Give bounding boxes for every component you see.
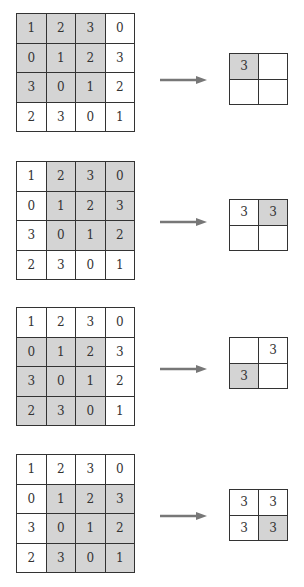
input-cell: 1 (76, 367, 106, 397)
input-cell: 0 (105, 308, 135, 338)
output-cell: 3 (230, 490, 259, 516)
input-cell: 1 (46, 191, 76, 221)
input-cell: 3 (46, 102, 76, 132)
input-cell: 0 (105, 162, 135, 192)
output-cell: 3 (230, 515, 259, 541)
input-cell: 3 (105, 191, 135, 221)
input-cell: 1 (105, 102, 135, 132)
input-cell: 0 (105, 14, 135, 44)
input-cell: 0 (17, 43, 47, 73)
input-grid-step-3: 1230012330122301 (16, 307, 135, 426)
input-grid-step-4: 1230012330122301 (16, 454, 135, 573)
output-cell: 3 (259, 515, 288, 541)
input-cell: 1 (46, 337, 76, 367)
output-cell (259, 363, 288, 389)
input-grid-step-1: 1230012330122301 (16, 13, 135, 132)
input-cell: 0 (17, 337, 47, 367)
input-cell: 2 (46, 14, 76, 44)
input-cell: 3 (46, 543, 76, 573)
input-cell: 3 (105, 484, 135, 514)
arrow-right-icon (160, 512, 207, 520)
input-cell: 3 (17, 221, 47, 251)
input-cell: 0 (17, 191, 47, 221)
output-cell: 3 (230, 363, 259, 389)
input-cell: 0 (76, 250, 106, 280)
input-cell: 0 (46, 221, 76, 251)
output-cell: 3 (230, 200, 259, 226)
input-cell: 1 (46, 43, 76, 73)
input-cell: 1 (105, 396, 135, 426)
input-cell: 0 (76, 396, 106, 426)
input-cell: 0 (76, 102, 106, 132)
input-cell: 1 (105, 543, 135, 573)
arrow-right-icon (160, 218, 207, 226)
output-grid-step-2: 33 (229, 199, 288, 251)
input-cell: 2 (105, 221, 135, 251)
input-cell: 1 (17, 14, 47, 44)
input-cell: 1 (17, 162, 47, 192)
output-cell: 3 (259, 490, 288, 516)
input-cell: 0 (17, 484, 47, 514)
output-cell (259, 54, 288, 80)
input-cell: 3 (46, 396, 76, 426)
input-cell: 2 (17, 250, 47, 280)
input-cell: 3 (46, 250, 76, 280)
input-cell: 3 (17, 73, 47, 103)
input-cell: 1 (17, 308, 47, 338)
input-cell: 0 (46, 367, 76, 397)
input-cell: 2 (105, 514, 135, 544)
input-cell: 3 (76, 308, 106, 338)
input-cell: 2 (46, 162, 76, 192)
input-cell: 2 (76, 337, 106, 367)
input-cell: 0 (46, 73, 76, 103)
input-cell: 3 (76, 455, 106, 485)
output-cell: 3 (259, 200, 288, 226)
input-cell: 3 (17, 514, 47, 544)
input-cell: 0 (105, 455, 135, 485)
input-cell: 2 (105, 367, 135, 397)
input-cell: 2 (17, 102, 47, 132)
input-cell: 0 (46, 514, 76, 544)
input-cell: 1 (76, 514, 106, 544)
input-cell: 2 (17, 543, 47, 573)
output-grid-step-4: 3333 (229, 489, 288, 541)
input-cell: 1 (17, 455, 47, 485)
input-cell: 2 (17, 396, 47, 426)
input-cell: 3 (76, 14, 106, 44)
input-cell: 1 (76, 221, 106, 251)
input-cell: 3 (105, 43, 135, 73)
output-grid-step-1: 3 (229, 53, 288, 105)
input-cell: 1 (46, 484, 76, 514)
output-cell: 3 (230, 54, 259, 80)
arrow-right-icon (160, 76, 207, 84)
input-cell: 1 (105, 250, 135, 280)
input-cell: 1 (76, 73, 106, 103)
output-cell (230, 79, 259, 105)
output-cell (259, 79, 288, 105)
output-cell (230, 338, 259, 364)
input-cell: 2 (76, 43, 106, 73)
input-cell: 3 (76, 162, 106, 192)
arrow-right-icon (160, 365, 207, 373)
output-grid-step-3: 33 (229, 337, 288, 389)
output-cell (259, 225, 288, 251)
input-cell: 2 (105, 73, 135, 103)
input-cell: 2 (46, 308, 76, 338)
input-cell: 3 (17, 367, 47, 397)
input-grid-step-2: 1230012330122301 (16, 161, 135, 280)
input-cell: 2 (76, 191, 106, 221)
output-cell (230, 225, 259, 251)
input-cell: 2 (46, 455, 76, 485)
input-cell: 2 (76, 484, 106, 514)
input-cell: 0 (76, 543, 106, 573)
output-cell: 3 (259, 338, 288, 364)
input-cell: 3 (105, 337, 135, 367)
